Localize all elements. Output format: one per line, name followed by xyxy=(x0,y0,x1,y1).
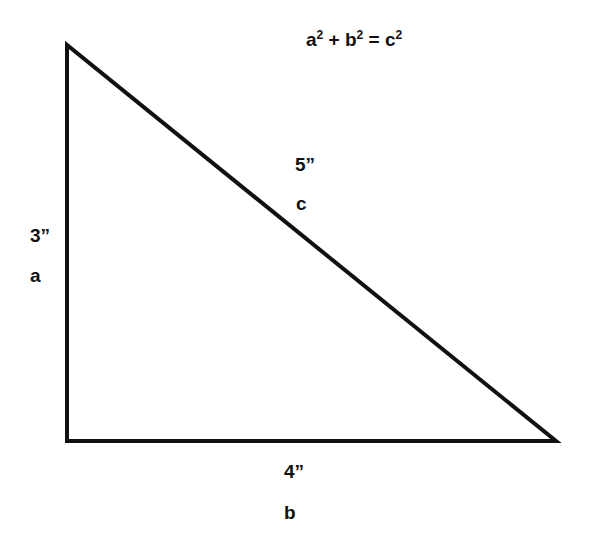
formula-a: a xyxy=(306,29,317,50)
side-b-name-label: b xyxy=(284,503,296,522)
side-b-length-label: 4” xyxy=(284,462,304,481)
triangle-shape xyxy=(67,45,556,441)
plus-sign: + xyxy=(323,29,345,50)
pythagorean-formula: a2 + b2 = c2 xyxy=(306,30,402,49)
formula-b: b xyxy=(345,29,357,50)
equals-sign: = xyxy=(363,29,385,50)
hypotenuse-length-label: 5” xyxy=(295,155,315,174)
diagram-canvas: a2 + b2 = c2 5” c 3” a 4” b xyxy=(0,0,590,550)
side-a-length-label: 3” xyxy=(30,226,50,245)
exponent: 2 xyxy=(395,28,402,42)
hypotenuse-name-label: c xyxy=(296,194,307,213)
side-a-name-label: a xyxy=(30,266,41,285)
formula-c: c xyxy=(385,29,396,50)
